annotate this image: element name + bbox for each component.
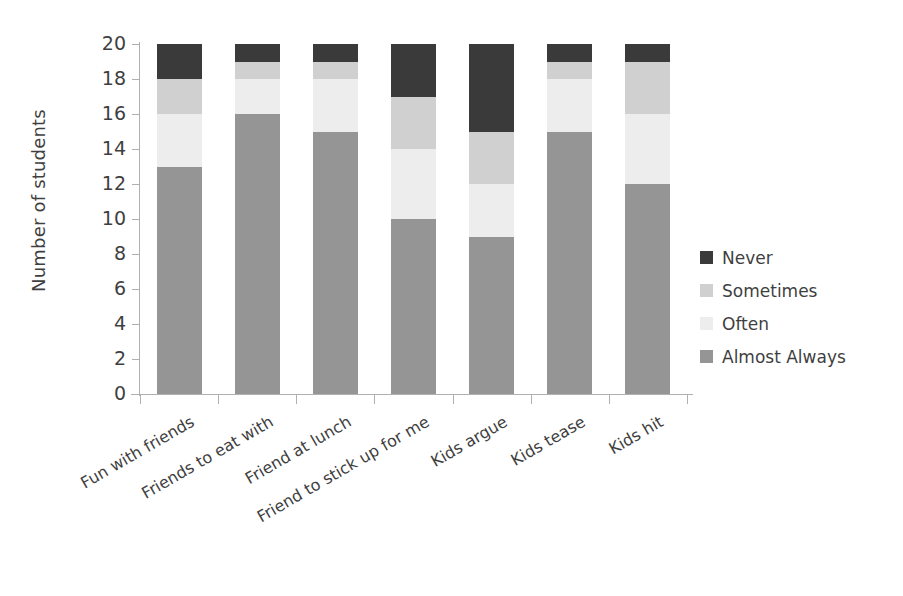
bar-column (469, 44, 514, 394)
chart-legend: NeverSometimesOftenAlmost Always (700, 241, 846, 373)
bar-segment (235, 79, 280, 114)
y-tick-label: 20 (88, 34, 126, 53)
y-tick-label: 16 (88, 104, 126, 123)
bar-segment (391, 97, 436, 150)
legend-swatch-icon (700, 317, 713, 330)
bar-column (313, 44, 358, 394)
legend-swatch-icon (700, 350, 713, 363)
y-tick-mark (132, 219, 140, 220)
y-tick-mark (132, 149, 140, 150)
legend-swatch-icon (700, 284, 713, 297)
y-tick-label: 0 (88, 384, 126, 403)
y-tick-mark (132, 324, 140, 325)
bar-segment (313, 44, 358, 62)
y-tick-mark (132, 44, 140, 45)
y-tick-mark (132, 114, 140, 115)
bar-segment (313, 132, 358, 395)
legend-label: Never (722, 248, 773, 268)
x-tick-mark (296, 395, 297, 404)
x-tick-mark (531, 395, 532, 404)
bar-segment (235, 44, 280, 62)
y-tick-mark (132, 79, 140, 80)
y-tick-label: 4 (88, 314, 126, 333)
bar-column (157, 44, 202, 394)
y-tick-mark (132, 254, 140, 255)
legend-item[interactable]: Almost Always (700, 340, 846, 373)
plot-area (140, 44, 687, 394)
x-tick-mark (218, 395, 219, 404)
bar-column (235, 44, 280, 394)
y-tick-mark (132, 184, 140, 185)
legend-item[interactable]: Often (700, 307, 846, 340)
bar-segment (625, 114, 670, 184)
bar-segment (547, 79, 592, 132)
x-tick-mark (374, 395, 375, 404)
bar-segment (625, 62, 670, 115)
bar-segment (235, 62, 280, 80)
legend-label: Often (722, 314, 769, 334)
bar-segment (625, 184, 670, 394)
legend-label: Almost Always (722, 347, 846, 367)
x-tick-mark (687, 395, 688, 404)
y-tick-mark (132, 394, 140, 395)
bar-segment (469, 44, 514, 132)
y-tick-label: 14 (88, 139, 126, 158)
bar-segment (469, 237, 514, 395)
bar-segment (547, 44, 592, 62)
bar-segment (469, 132, 514, 185)
bar-segment (157, 114, 202, 167)
y-axis-title: Number of students (28, 91, 49, 311)
legend-label: Sometimes (722, 281, 817, 301)
bar-column (391, 44, 436, 394)
bar-segment (157, 79, 202, 114)
bar-segment (157, 167, 202, 395)
bar-segment (313, 62, 358, 80)
y-tick-label: 6 (88, 279, 126, 298)
bar-segment (469, 184, 514, 237)
x-tick-mark (609, 395, 610, 404)
stacked-bar-chart: Number of students 20181614121086420 Fun… (0, 0, 903, 596)
bar-segment (391, 219, 436, 394)
y-tick-label: 12 (88, 174, 126, 193)
y-tick-label: 2 (88, 349, 126, 368)
bar-segment (313, 79, 358, 132)
bar-segment (391, 44, 436, 97)
x-tick-mark (453, 395, 454, 404)
bar-segment (625, 44, 670, 62)
bar-segment (157, 44, 202, 79)
y-tick-label: 10 (88, 209, 126, 228)
bar-segment (235, 114, 280, 394)
bar-column (625, 44, 670, 394)
y-tick-label: 18 (88, 69, 126, 88)
bar-segment (547, 132, 592, 395)
legend-item[interactable]: Never (700, 241, 846, 274)
x-tick-mark (140, 395, 141, 404)
bar-column (547, 44, 592, 394)
legend-item[interactable]: Sometimes (700, 274, 846, 307)
bar-segment (547, 62, 592, 80)
y-tick-mark (132, 359, 140, 360)
y-tick-mark (132, 289, 140, 290)
y-tick-label: 8 (88, 244, 126, 263)
bar-segment (391, 149, 436, 219)
legend-swatch-icon (700, 251, 713, 264)
